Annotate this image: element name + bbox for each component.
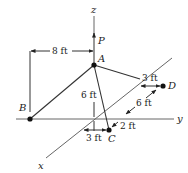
dimension-6ft-height: 6 ft — [81, 90, 97, 117]
dimension-3ft-d-label: 3 ft — [142, 73, 158, 83]
dimension-6ft-cd: 6 ft — [126, 90, 156, 114]
statics-diagram: z P y x 8 ft 6 ft 3 ft 6 ft — [0, 0, 188, 173]
point-c-label: C — [108, 133, 116, 144]
dimension-3ft-d: 3 ft — [141, 73, 160, 86]
point-b-label: B — [18, 102, 26, 113]
dimension-2ft-c: 2 ft — [112, 121, 136, 131]
z-axis-label: z — [90, 4, 97, 15]
dimension-6ft-cd-label: 6 ft — [136, 98, 152, 108]
dimension-3ft-c-label: 3 ft — [86, 133, 102, 143]
point-c: C — [106, 127, 116, 144]
x-axis-label: x — [38, 160, 44, 171]
z-axis: z — [90, 4, 97, 34]
point-d: D — [160, 80, 176, 91]
dimension-2ft-c-label: 2 ft — [120, 121, 136, 131]
point-d-label: D — [167, 80, 176, 91]
y-axis: y — [16, 113, 183, 124]
dimension-3ft-c: 3 ft — [84, 121, 106, 143]
member-ad — [94, 65, 140, 79]
y-axis-label: y — [176, 113, 183, 124]
dimension-8ft-label: 8 ft — [52, 46, 68, 56]
dimension-6ft-height-label: 6 ft — [81, 90, 97, 100]
point-a: A — [91, 53, 105, 68]
force-p-label: P — [97, 35, 105, 46]
point-a-label: A — [97, 53, 105, 64]
dimension-8ft: 8 ft — [30, 46, 93, 112]
